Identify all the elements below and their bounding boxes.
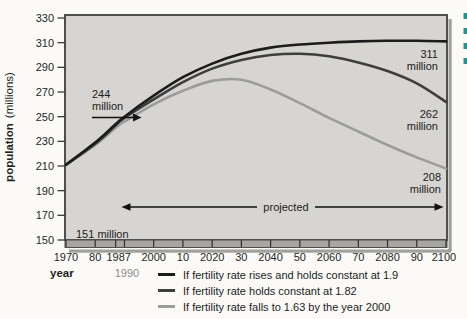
y-tick-label: 170 bbox=[36, 209, 54, 221]
legend-label-holds: If fertility rate holds constant at 1.82 bbox=[183, 285, 357, 297]
x-tick-label: 70 bbox=[352, 251, 364, 263]
x-tick-label: 2060 bbox=[317, 251, 341, 263]
x-sub-label-1990: 1990 bbox=[115, 267, 139, 279]
x-axis-band bbox=[65, 240, 447, 248]
y-axis-title: population(millions) bbox=[3, 72, 15, 182]
textbook-figure-page: 330310290270250230210190170150 197080198… bbox=[0, 0, 467, 319]
projected-label: projected bbox=[263, 201, 308, 213]
clipped-text-fragment bbox=[464, 28, 467, 34]
y-tick-label: 310 bbox=[36, 37, 54, 49]
legend: If fertility rate rises and holds consta… bbox=[158, 269, 398, 313]
plot-background bbox=[65, 15, 447, 240]
y-tick-label: 190 bbox=[36, 185, 54, 197]
plot-shadow-right bbox=[449, 19, 452, 251]
y-tick-label: 230 bbox=[36, 135, 54, 147]
legend-item-falls: If fertility rate falls to 1.63 by the y… bbox=[158, 301, 390, 313]
clipped-margin-text-fragments bbox=[464, 13, 467, 64]
legend-item-rises: If fertility rate rises and holds consta… bbox=[158, 269, 398, 281]
x-tick-label: 2040 bbox=[258, 251, 282, 263]
x-tick-label: 30 bbox=[235, 251, 247, 263]
x-tick-label: 2080 bbox=[375, 251, 399, 263]
population-projection-chart: 330310290270250230210190170150 197080198… bbox=[0, 0, 467, 319]
y-tick-label: 270 bbox=[36, 86, 54, 98]
x-tick-label: 2000 bbox=[141, 251, 165, 263]
y-tick-label: 290 bbox=[36, 61, 54, 73]
x-tick-label: 90 bbox=[411, 251, 423, 263]
y-tick-label: 210 bbox=[36, 160, 54, 172]
y-tick-label: 150 bbox=[36, 234, 54, 246]
clipped-text-fragment bbox=[464, 43, 467, 49]
clipped-text-fragment bbox=[464, 13, 467, 19]
x-tick-label: 10 bbox=[177, 251, 189, 263]
x-tick-label: 1987 bbox=[106, 251, 130, 263]
y-axis: 330310290270250230210190170150 bbox=[36, 12, 65, 246]
legend-label-rises: If fertility rate rises and holds consta… bbox=[183, 269, 398, 281]
clipped-text-fragment bbox=[464, 58, 467, 64]
legend-label-falls: If fertility rate falls to 1.63 by the y… bbox=[183, 301, 390, 313]
x-tick-label: 50 bbox=[294, 251, 306, 263]
x-axis-title: year bbox=[50, 267, 74, 279]
y-tick-label: 250 bbox=[36, 111, 54, 123]
x-tick-label: 2020 bbox=[200, 251, 224, 263]
x-tick-label: 2100 bbox=[432, 251, 456, 263]
legend-item-holds: If fertility rate holds constant at 1.82 bbox=[158, 285, 357, 297]
x-tick-label: 1970 bbox=[54, 251, 78, 263]
annotation-151-million: 151 million bbox=[76, 228, 129, 240]
y-tick-label: 330 bbox=[36, 12, 54, 24]
x-tick-label: 80 bbox=[89, 251, 101, 263]
